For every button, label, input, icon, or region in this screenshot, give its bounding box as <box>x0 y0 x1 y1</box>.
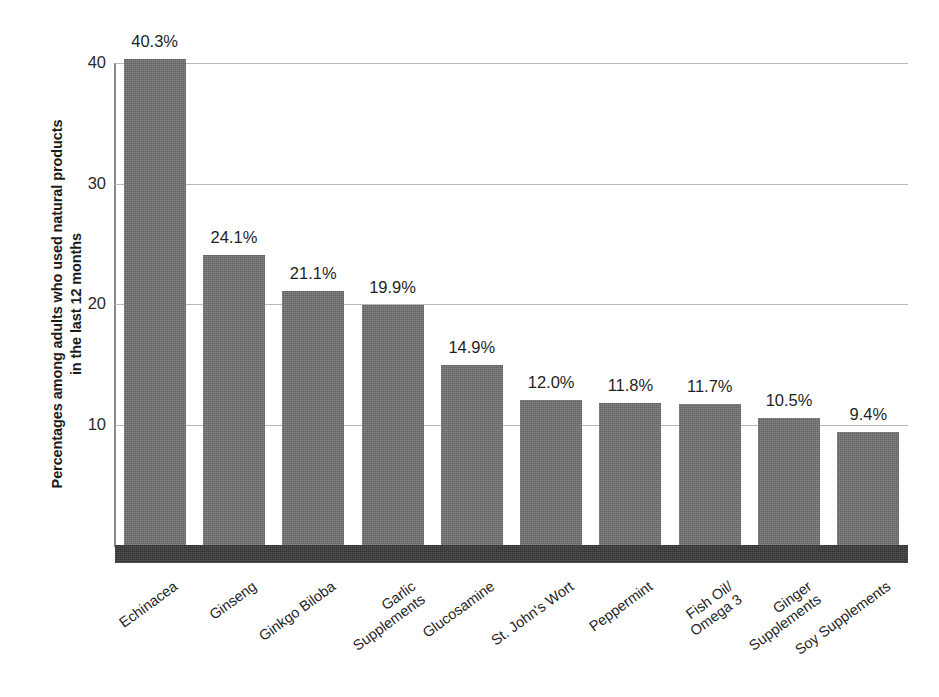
bar-chart: Percentages among adults who used natura… <box>0 0 939 697</box>
category-label: Garlic Supplements <box>255 578 428 697</box>
bar <box>124 59 186 545</box>
bar <box>679 404 741 545</box>
bar <box>362 305 424 545</box>
baseline-band <box>115 545 908 563</box>
y-tick-label-30: 30 <box>68 175 106 192</box>
bar <box>837 432 899 545</box>
y-tick-label-40: 40 <box>68 54 106 71</box>
bar <box>599 403 661 545</box>
y-tick-label-10: 10 <box>68 416 106 433</box>
bar-value-label: 40.3% <box>105 33 205 50</box>
bar-value-label: 9.4% <box>818 406 918 423</box>
bar <box>520 400 582 545</box>
bar-value-label: 14.9% <box>422 339 522 356</box>
bars-group <box>115 63 908 545</box>
category-label: Ginseng <box>96 578 259 697</box>
category-label: Echinacea <box>17 578 180 697</box>
y-tick-label-20: 20 <box>68 295 106 312</box>
bar <box>203 255 265 545</box>
category-label: St. John's Wort <box>413 578 576 697</box>
bar-value-label: 19.9% <box>343 279 443 296</box>
bar <box>441 365 503 545</box>
bar <box>282 291 344 545</box>
bar-value-label: 24.1% <box>184 229 284 246</box>
bar <box>758 418 820 545</box>
